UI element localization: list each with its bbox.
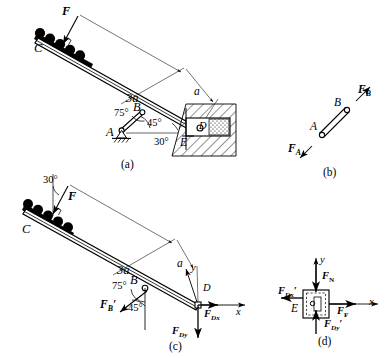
point-d-label-c: D xyxy=(203,283,211,294)
force-f-label-c: F xyxy=(68,190,76,203)
beam-cd-a xyxy=(35,38,200,134)
force-fb-label-b: FB xyxy=(358,84,371,98)
member-ab-b xyxy=(319,107,349,137)
beam-cd-c xyxy=(23,209,199,310)
point-d-label-a: D xyxy=(199,121,207,132)
dim-a-label-c: a xyxy=(177,258,183,270)
force-fdy-prime-label-d: FDy′ xyxy=(324,319,342,332)
angle-75-label-c: 75° xyxy=(112,281,127,292)
panel-a-sublabel: (a) xyxy=(121,159,134,171)
point-b-label-a: B xyxy=(133,101,141,114)
angle-30-label-c: 30° xyxy=(43,175,58,186)
axis-x-label-d: x xyxy=(369,297,374,308)
force-fb-prime-label-c: FB′ xyxy=(100,299,116,313)
dim-3a-label-c: 3a xyxy=(117,264,130,277)
force-f-a xyxy=(63,16,78,45)
panel-c-sublabel: (c) xyxy=(169,341,182,353)
force-f-label-a: F xyxy=(62,5,70,18)
force-fa-label-b: FA xyxy=(288,143,301,157)
dim-a-label-a: a xyxy=(194,86,200,98)
point-c-label-c: C xyxy=(22,223,30,236)
force-fn-label-d: FN xyxy=(322,271,334,284)
angle-30-label-a: 30° xyxy=(154,137,169,148)
dimension-3a-c xyxy=(70,185,175,275)
axes-d-c xyxy=(186,269,245,305)
axis-x-label-c: x xyxy=(236,307,241,318)
force-fa-b xyxy=(300,146,312,158)
axis-y-label-c: y xyxy=(191,263,196,274)
force-fdx-prime-label-d: FDx′ xyxy=(278,286,297,299)
point-a-label-b: A xyxy=(310,121,317,133)
angle-45-label-a: 45° xyxy=(147,118,162,129)
force-fdy-label-c: FDy xyxy=(172,326,187,339)
panel-b-sublabel: (b) xyxy=(323,167,336,179)
angle-75-label-a: 75° xyxy=(114,108,129,119)
statics-figure xyxy=(0,0,388,358)
axis-y-label-d: y xyxy=(320,255,325,266)
point-b-label-c: B xyxy=(130,274,138,287)
panel-a xyxy=(34,15,236,156)
point-a-label-a: A xyxy=(106,126,114,139)
point-e-label-a: E xyxy=(180,137,187,149)
point-c-label-a: C xyxy=(34,42,42,55)
force-f-c xyxy=(53,186,68,215)
angle-45-label-c: 45° xyxy=(128,303,143,314)
panel-d-sublabel: (d) xyxy=(318,336,331,348)
point-e-label-d: E xyxy=(291,303,298,315)
force-fdx-label-c: FDx xyxy=(204,309,220,322)
point-b-label-b: B xyxy=(334,97,341,109)
